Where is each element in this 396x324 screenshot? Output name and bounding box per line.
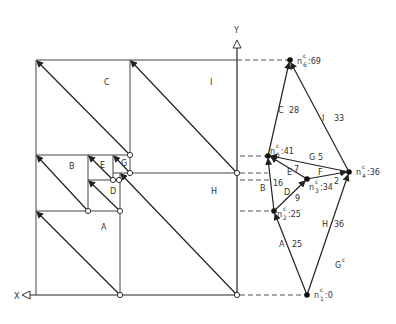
svg-text:33: 33 [334, 114, 344, 123]
svg-text:16: 16 [273, 179, 283, 188]
svg-text:F: F [318, 168, 323, 177]
diagonal-i [131, 61, 237, 173]
svg-text:1: 1 [320, 295, 324, 302]
projection-lines [237, 60, 305, 295]
svg-text:2: 2 [334, 177, 339, 186]
svg-text:n: n [309, 183, 314, 192]
edge-label-e: E 7 [287, 165, 299, 177]
svg-text:9: 9 [295, 194, 300, 203]
corner-point [127, 152, 132, 157]
edge-a [275, 214, 307, 295]
diagonal-h [121, 174, 237, 295]
node-label-n1: n c 1 :0 [314, 286, 333, 302]
svg-text:c: c [362, 163, 365, 170]
x-axis-label: X [14, 292, 20, 301]
svg-text:c: c [315, 178, 318, 185]
node-label-n3: n c 3 :34 [309, 178, 333, 194]
node-label-n6: n c 6 :69 [297, 52, 321, 68]
x-axis-arrow-icon [22, 291, 30, 299]
diagonal-c [37, 61, 130, 155]
region-label-a: A [101, 223, 107, 232]
svg-text:n: n [270, 147, 275, 156]
svg-text:G: G [335, 261, 341, 270]
svg-text:7: 7 [294, 165, 299, 174]
svg-text:2: 2 [283, 214, 287, 221]
y-axis-label: Y [233, 26, 239, 35]
svg-text::41: :41 [281, 147, 294, 156]
svg-text:36: 36 [334, 220, 344, 229]
region-label-c: C [104, 78, 110, 87]
svg-text:5: 5 [276, 151, 280, 158]
floorplan-graph-diagram: C I B E G D A H X Y [0, 0, 396, 324]
diagonal-a [37, 212, 120, 295]
corner-point [234, 170, 239, 175]
y-axis-arrow-icon [233, 40, 241, 48]
svg-text:c: c [303, 52, 306, 59]
node-label-n4: n c 4 :36 [356, 163, 380, 179]
edge-label-h: H 36 [322, 220, 344, 229]
corner-point [234, 292, 239, 297]
svg-text:A: A [279, 240, 285, 249]
svg-text:c: c [320, 286, 323, 293]
diagonal-d [89, 181, 120, 211]
svg-text:H: H [322, 220, 328, 229]
svg-text:I: I [322, 114, 324, 123]
corner-point [85, 208, 90, 213]
svg-text:c: c [283, 205, 286, 212]
region-label-h: H [211, 187, 217, 196]
svg-text:28: 28 [289, 106, 299, 115]
svg-text:3: 3 [315, 187, 319, 194]
node-label-n5: n c 5 :41 [270, 142, 294, 158]
svg-text:n: n [277, 210, 282, 219]
rectangle-dissection: C I B E G D A H X Y [14, 26, 241, 301]
corner-point [110, 177, 115, 182]
svg-text::0: :0 [325, 291, 333, 300]
node-n2 [271, 208, 277, 214]
svg-text:c: c [342, 256, 345, 263]
diagonal-b [37, 156, 88, 211]
node-label-n2: n c 2 :25 [277, 205, 301, 221]
edge-label-d: D 9 [284, 188, 300, 203]
edge-label-a: A 25 [279, 240, 302, 249]
svg-text:D: D [284, 188, 290, 197]
edge-h [307, 175, 348, 295]
region-label-i: I [210, 78, 212, 87]
svg-text:C: C [278, 106, 284, 115]
corner-point [116, 177, 121, 182]
edge-f [307, 172, 346, 179]
svg-text::69: :69 [308, 57, 321, 66]
svg-text:n: n [297, 57, 302, 66]
corner-point [127, 170, 132, 175]
svg-text:G: G [309, 153, 315, 162]
svg-text:c: c [276, 142, 279, 149]
graph-name-label: G c [335, 256, 345, 270]
edge-label-g: G 5 [309, 153, 323, 162]
corner-point [117, 208, 122, 213]
node-n1 [304, 292, 310, 298]
region-label-g: G [121, 159, 127, 168]
node-n4 [346, 169, 352, 175]
node-n3 [304, 176, 310, 182]
svg-text:4: 4 [362, 172, 366, 179]
svg-text::34: :34 [320, 183, 333, 192]
svg-text::25: :25 [288, 210, 301, 219]
node-n6 [287, 57, 293, 63]
region-label-d: D [110, 187, 116, 196]
edge-label-c: C 28 [278, 106, 299, 115]
region-label-b: B [69, 162, 75, 171]
svg-text::36: :36 [367, 168, 380, 177]
edge-label-i: I 33 [322, 114, 344, 123]
corner-point [117, 292, 122, 297]
graph-gc: n c 6 :69 n c 5 :41 n c 4 :36 n c 3 :34 … [260, 52, 380, 302]
svg-text:5: 5 [318, 153, 323, 162]
svg-text:n: n [356, 168, 361, 177]
svg-text:n: n [314, 291, 319, 300]
svg-text:B: B [260, 184, 266, 193]
svg-text:6: 6 [303, 61, 307, 68]
region-label-e: E [100, 161, 105, 170]
svg-text:E: E [287, 168, 292, 177]
svg-text:25: 25 [292, 240, 302, 249]
